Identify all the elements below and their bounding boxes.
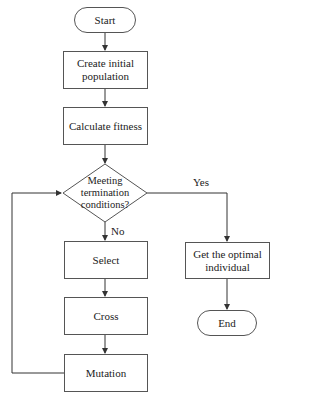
calculate-fitness-node: Calculate fitness	[63, 107, 148, 145]
no-label: No	[111, 225, 124, 237]
optimal-individual-node: Get the optimal individual	[185, 242, 270, 279]
yes-label: Yes	[193, 176, 209, 188]
end-node: End	[197, 310, 257, 336]
select-node: Select	[64, 241, 148, 279]
mutation-node: Mutation	[64, 354, 148, 392]
create-population-node: Create initial population	[63, 51, 148, 89]
decision-text: Meeting termination conditions?	[73, 175, 137, 211]
start-node: Start	[74, 7, 136, 33]
cross-node: Cross	[64, 297, 148, 335]
